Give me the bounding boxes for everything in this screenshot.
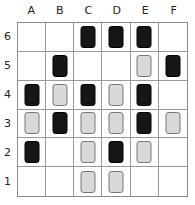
cell-c6[interactable] xyxy=(74,23,102,52)
cell-f2[interactable] xyxy=(159,138,187,167)
black-card[interactable] xyxy=(24,141,39,163)
cell-a4[interactable] xyxy=(18,81,46,110)
row-label-4: 4 xyxy=(0,88,15,101)
black-card[interactable] xyxy=(137,112,152,134)
cell-f4[interactable] xyxy=(159,81,187,110)
column-label-e: E xyxy=(131,4,160,17)
row-label-6: 6 xyxy=(0,30,15,43)
cell-d4[interactable] xyxy=(102,81,130,110)
cell-f5[interactable] xyxy=(159,52,187,81)
cell-e2[interactable] xyxy=(131,138,159,167)
black-card[interactable] xyxy=(52,112,67,134)
black-card[interactable] xyxy=(109,141,124,163)
column-label-c: C xyxy=(74,4,103,17)
cell-b5[interactable] xyxy=(46,52,74,81)
gray-card[interactable] xyxy=(109,112,124,134)
column-label-f: F xyxy=(160,4,189,17)
black-card[interactable] xyxy=(80,26,95,48)
cell-d5[interactable] xyxy=(102,52,130,81)
cell-f6[interactable] xyxy=(159,23,187,52)
cell-c2[interactable] xyxy=(74,138,102,167)
gray-card[interactable] xyxy=(137,55,152,77)
black-card[interactable] xyxy=(165,55,180,77)
cell-b3[interactable] xyxy=(46,110,74,139)
row-label-1: 1 xyxy=(0,175,15,188)
gray-card[interactable] xyxy=(80,141,95,163)
black-card[interactable] xyxy=(137,84,152,106)
cell-f1[interactable] xyxy=(159,167,187,196)
cell-e4[interactable] xyxy=(131,81,159,110)
cell-d6[interactable] xyxy=(102,23,130,52)
black-card[interactable] xyxy=(24,84,39,106)
cell-a1[interactable] xyxy=(18,167,46,196)
gray-card[interactable] xyxy=(80,112,95,134)
black-card[interactable] xyxy=(52,55,67,77)
cell-c3[interactable] xyxy=(74,110,102,139)
cell-e1[interactable] xyxy=(131,167,159,196)
gray-card[interactable] xyxy=(52,84,67,106)
black-card[interactable] xyxy=(80,84,95,106)
cell-d1[interactable] xyxy=(102,167,130,196)
cell-b2[interactable] xyxy=(46,138,74,167)
column-label-a: A xyxy=(17,4,46,17)
cell-b6[interactable] xyxy=(46,23,74,52)
gray-card[interactable] xyxy=(137,141,152,163)
gray-card[interactable] xyxy=(80,171,95,193)
cell-b4[interactable] xyxy=(46,81,74,110)
cell-e6[interactable] xyxy=(131,23,159,52)
cell-c4[interactable] xyxy=(74,81,102,110)
column-label-b: B xyxy=(46,4,75,17)
row-label-3: 3 xyxy=(0,117,15,130)
black-card[interactable] xyxy=(109,26,124,48)
cell-d3[interactable] xyxy=(102,110,130,139)
gray-card[interactable] xyxy=(109,84,124,106)
column-label-d: D xyxy=(103,4,132,17)
row-label-5: 5 xyxy=(0,59,15,72)
cell-a6[interactable] xyxy=(18,23,46,52)
cell-c1[interactable] xyxy=(74,167,102,196)
gray-card[interactable] xyxy=(24,112,39,134)
row-label-2: 2 xyxy=(0,146,15,159)
cell-c5[interactable] xyxy=(74,52,102,81)
cell-f3[interactable] xyxy=(159,110,187,139)
black-card[interactable] xyxy=(137,26,152,48)
cell-e3[interactable] xyxy=(131,110,159,139)
card-grid xyxy=(17,22,188,197)
cell-a5[interactable] xyxy=(18,52,46,81)
cell-a2[interactable] xyxy=(18,138,46,167)
cell-b1[interactable] xyxy=(46,167,74,196)
gray-card[interactable] xyxy=(109,171,124,193)
cell-a3[interactable] xyxy=(18,110,46,139)
cell-d2[interactable] xyxy=(102,138,130,167)
cell-e5[interactable] xyxy=(131,52,159,81)
gray-card[interactable] xyxy=(165,112,180,134)
